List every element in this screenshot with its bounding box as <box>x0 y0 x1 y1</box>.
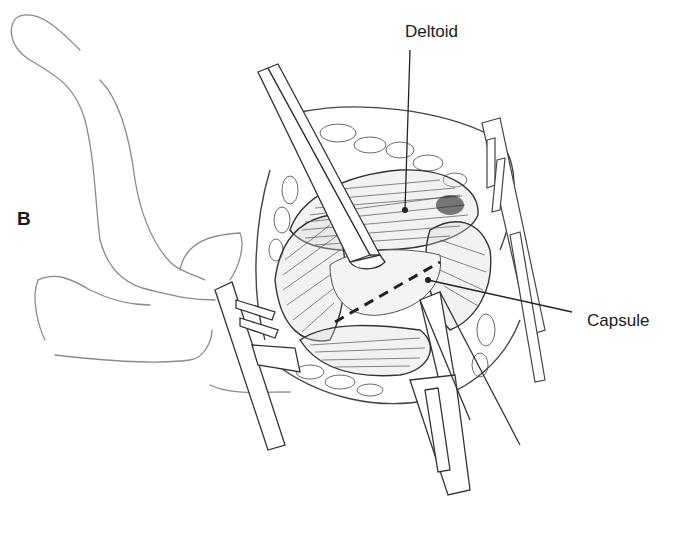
deltoid-label: Deltoid <box>405 22 458 42</box>
panel-letter: B <box>17 208 31 230</box>
illustration-drawing <box>0 0 687 542</box>
capsule-label: Capsule <box>587 311 649 331</box>
surgical-illustration: B Deltoid Capsule <box>0 0 687 542</box>
